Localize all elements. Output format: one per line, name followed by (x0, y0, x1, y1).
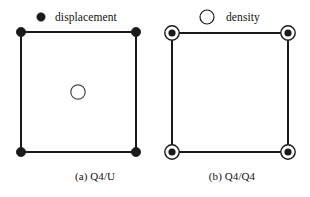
node-a-bottom-right (131, 147, 140, 156)
panel-a-q4u: (a) Q4/U (16, 27, 140, 183)
legend-density-label: density (226, 11, 260, 24)
filled-dot-icon (37, 13, 45, 21)
node-b-top-left (165, 26, 179, 40)
node-a-top-right (131, 27, 140, 36)
node-b-top-right (281, 26, 295, 40)
open-circle-icon (200, 10, 214, 24)
node-b-bottom-left (165, 145, 179, 159)
legend-displacement: displacement (37, 11, 118, 24)
caption-panel-b: (b) Q4/Q4 (209, 170, 256, 183)
node-a-top-left (16, 27, 25, 36)
filled-dot-icon (168, 29, 175, 36)
figure-container: displacement density (a) Q4/U (0, 0, 310, 197)
caption-panel-a: (a) Q4/U (75, 170, 115, 183)
filled-dot-icon (284, 148, 291, 155)
filled-dot-icon (284, 29, 291, 36)
filled-dot-icon (168, 148, 175, 155)
legend-density: density (200, 10, 260, 24)
node-b-bottom-right (281, 145, 295, 159)
element-diagram: displacement density (a) Q4/U (0, 0, 310, 197)
element-outline-b (172, 33, 288, 152)
legend-displacement-label: displacement (55, 11, 118, 24)
panel-b-q4q4: (b) Q4/Q4 (165, 26, 295, 183)
node-a-center-density (71, 85, 85, 99)
node-a-bottom-left (16, 147, 25, 156)
